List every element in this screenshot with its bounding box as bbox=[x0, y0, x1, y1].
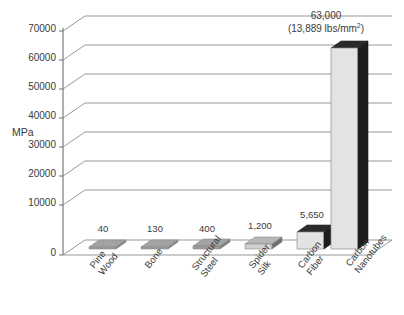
annotation-unit: (13,889 lbs/mm2) bbox=[253, 23, 399, 36]
y-tick-label-60000: 60000 bbox=[10, 53, 56, 64]
annotation-carbon-nanotubes: 63,000 (13,889 lbs/mm2) bbox=[253, 10, 399, 35]
y-tick-label-50000: 50000 bbox=[10, 82, 56, 93]
annotation-value: 63,000 bbox=[253, 10, 399, 23]
y-tick-label-30000: 30000 bbox=[10, 140, 56, 151]
bar-carbon-nanotubes bbox=[331, 41, 368, 249]
value-label-spider-silk: 1,200 bbox=[239, 221, 281, 231]
value-label-pine-wood: 40 bbox=[83, 224, 123, 234]
y-axis-title: MPa bbox=[12, 127, 34, 138]
value-label-bone: 130 bbox=[135, 224, 175, 234]
y-tick-label-70000: 70000 bbox=[10, 24, 56, 35]
tensile-strength-chart: 70000 60000 50000 40000 30000 20000 1000… bbox=[0, 0, 404, 315]
y-tick-label-40000: 40000 bbox=[10, 111, 56, 122]
annotation-unit-prefix: (13,889 lbs/mm bbox=[288, 23, 357, 34]
annotation-unit-suffix: ) bbox=[361, 23, 364, 34]
value-label-structural-steel: 400 bbox=[187, 224, 227, 234]
y-tick-label-10000: 10000 bbox=[10, 198, 56, 209]
y-tick-label-0: 0 bbox=[10, 248, 56, 259]
value-label-carbon-fiber: 5,650 bbox=[290, 210, 334, 220]
y-axis bbox=[59, 28, 63, 255]
y-tick-label-20000: 20000 bbox=[10, 169, 56, 180]
